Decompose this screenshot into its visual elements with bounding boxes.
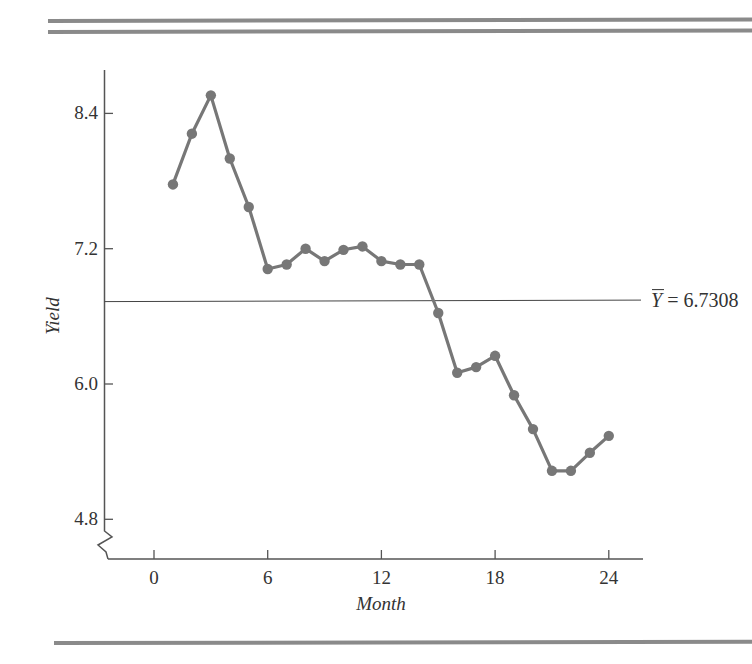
x-tick-label: 24 — [599, 567, 619, 588]
data-point-marker — [471, 362, 481, 372]
x-tick-label: 0 — [149, 567, 159, 588]
data-point-marker — [452, 368, 462, 378]
data-point-marker — [300, 244, 310, 254]
data-point-marker — [187, 128, 197, 138]
data-point-marker — [395, 259, 405, 269]
data-point-marker — [376, 256, 386, 266]
mean-line — [105, 300, 642, 302]
x-tick-label: 12 — [372, 567, 391, 588]
data-point-marker — [263, 264, 273, 274]
data-point-marker — [357, 241, 367, 251]
axes — [98, 70, 643, 559]
data-point-marker — [206, 90, 216, 100]
line-chart: 4.86.07.28.406121824 Y = 6.7308 Yield Mo… — [0, 0, 752, 664]
y-axis-label: Yield — [42, 297, 63, 335]
data-point-marker — [585, 448, 595, 458]
x-tick-label: 18 — [486, 567, 505, 588]
data-point-marker — [225, 153, 235, 163]
data-point-marker — [319, 256, 329, 266]
data-point-marker — [244, 202, 254, 212]
data-point-marker — [604, 431, 614, 441]
data-point-marker — [547, 466, 557, 476]
x-axis-label: Month — [355, 593, 406, 614]
y-axis — [98, 70, 112, 559]
data-point-marker — [168, 179, 178, 189]
data-point-marker — [281, 259, 291, 269]
y-tick-label: 4.8 — [74, 508, 98, 529]
data-point-marker — [414, 259, 424, 269]
x-tick-label: 6 — [263, 567, 273, 588]
yield-series — [168, 90, 614, 476]
data-point-marker — [509, 390, 519, 400]
y-tick-label: 6.0 — [74, 373, 98, 394]
data-point-marker — [566, 466, 576, 476]
data-point-marker — [490, 351, 500, 361]
ticks: 4.86.07.28.406121824 — [74, 102, 619, 588]
data-point-marker — [528, 424, 538, 434]
y-tick-label: 7.2 — [74, 238, 98, 259]
data-point-marker — [338, 245, 348, 255]
series-line — [173, 95, 609, 470]
y-tick-label: 8.4 — [74, 102, 98, 123]
mean-label: Y = 6.7308 — [651, 289, 738, 311]
mean-reference-line: Y = 6.7308 — [105, 289, 739, 311]
data-point-marker — [433, 308, 443, 318]
